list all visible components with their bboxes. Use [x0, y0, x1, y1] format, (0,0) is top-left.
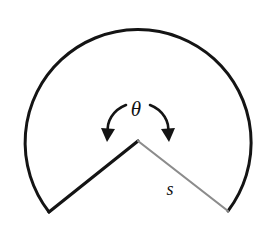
- theta-label: θ: [131, 97, 141, 121]
- figure-canvas: θ s: [0, 0, 275, 234]
- sector-angle-diagram: θ s: [0, 0, 275, 234]
- arc-radius-label-s: s: [166, 179, 173, 199]
